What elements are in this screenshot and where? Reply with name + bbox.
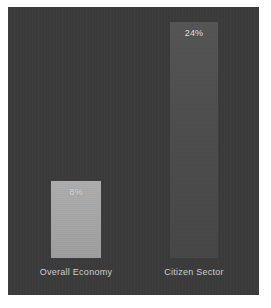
bar-citizen-sector[interactable]: 24% — [170, 22, 218, 258]
category-label-overall-economy: Overall Economy — [17, 267, 135, 278]
plot-area: 8% Overall Economy 24% Citizen Sector — [8, 7, 259, 295]
bar-chart-figure: 8% Overall Economy 24% Citizen Sector — [0, 0, 271, 308]
bar-value-label-overall-economy: 8% — [51, 187, 101, 198]
bar-value-label-citizen-sector: 24% — [170, 28, 218, 39]
texture-overlay — [8, 7, 259, 295]
bar-group-overall-economy[interactable]: 8% Overall Economy — [51, 181, 101, 258]
bar-overall-economy[interactable]: 8% — [51, 181, 101, 258]
bar-group-citizen-sector[interactable]: 24% Citizen Sector — [170, 22, 218, 258]
category-label-citizen-sector: Citizen Sector — [136, 267, 252, 278]
